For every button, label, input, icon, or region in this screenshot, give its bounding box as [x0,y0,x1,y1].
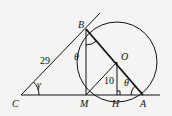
label-29: 29 [40,55,50,66]
tangent-cb [21,13,100,95]
segment-ba [86,29,143,95]
label-10: 10 [104,75,114,86]
angle-arc-b [86,41,97,45]
geometry-diagram: B O C M H A 29 10 γ θ θ [0,0,172,116]
label-theta-a: θ [124,77,129,88]
label-theta-b: θ [74,51,79,62]
label-o: O [121,51,128,62]
label-b: B [78,19,84,30]
angle-arc-a [131,86,135,95]
label-a: A [139,98,147,109]
label-h: H [111,98,120,109]
label-gamma: γ [37,79,42,90]
label-m: M [79,98,89,109]
label-c: C [12,98,19,109]
